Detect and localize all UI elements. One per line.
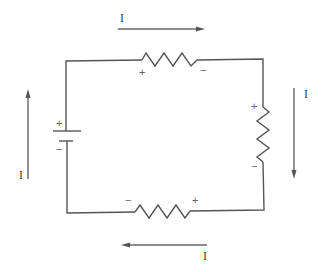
resistor-right-plus-label: +: [251, 100, 257, 112]
top-left-wire: [66, 60, 142, 131]
resistor-top-plus-label: +: [139, 66, 145, 78]
circuit-diagram: + − + − − + + − I I I I: [0, 0, 325, 272]
battery: [53, 131, 81, 141]
current-label-top: I: [120, 11, 124, 25]
resistor-bottom: [135, 205, 190, 218]
arrowhead-up-icon: [26, 89, 31, 98]
battery-plus-label: +: [56, 117, 62, 129]
battery-minus-label: −: [56, 143, 62, 155]
arrowhead-left-icon: [121, 243, 130, 248]
current-label-bottom: I: [203, 249, 207, 263]
arrowhead-right-icon: [196, 27, 205, 32]
current-label-right: I: [304, 87, 308, 101]
arrowhead-down-icon: [292, 170, 297, 179]
resistor-top: [142, 53, 197, 66]
resistor-right: [257, 107, 269, 162]
resistor-top-minus-label: −: [200, 64, 206, 76]
resistor-bottom-plus-label: +: [192, 194, 198, 206]
resistor-bottom-minus-label: −: [125, 194, 131, 206]
resistor-right-minus-label: −: [251, 160, 257, 172]
circuit-wires: [66, 59, 264, 213]
current-label-left: I: [19, 168, 23, 182]
